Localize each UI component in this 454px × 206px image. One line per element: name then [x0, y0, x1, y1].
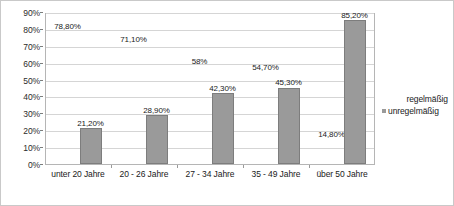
y-axis-tick-mark: [40, 80, 43, 81]
bar-unregelmaessig: [146, 115, 168, 164]
x-axis-tick-label: über 50 Jahre: [309, 169, 375, 179]
chart-frame: 0%10%20%30%40%50%60%70%80%90% 78,80%21,2…: [0, 0, 454, 206]
y-axis-tick-label: 20%: [23, 127, 40, 136]
y-axis-tick-label: 30%: [23, 110, 40, 119]
x-axis-tick-mark: [243, 165, 244, 168]
gridline: [46, 30, 374, 31]
y-axis-tick-label: 40%: [23, 93, 40, 102]
y-axis-tick-mark: [40, 12, 43, 13]
data-label: 54,70%: [252, 63, 279, 72]
x-axis-tick-label: 20 - 26 Jahre: [111, 169, 177, 179]
bar-regelmaessig: [189, 66, 211, 164]
x-axis-tick-label: 27 - 34 Jahre: [177, 169, 243, 179]
data-label: 42,30%: [209, 84, 236, 93]
x-axis-tick-label: unter 20 Jahre: [45, 169, 111, 179]
x-axis-tick-mark: [111, 165, 112, 168]
x-axis-tick-mark: [177, 165, 178, 168]
legend-item-regelmaessig[interactable]: regelmäßig: [382, 93, 450, 105]
y-axis-tick-mark: [40, 113, 43, 114]
gridline: [46, 64, 374, 65]
y-axis-tick-mark: [40, 164, 43, 165]
bar-unregelmaessig: [80, 128, 102, 164]
data-label: 21,20%: [77, 119, 104, 128]
data-label: 78,80%: [54, 22, 81, 31]
y-axis-tick-label: 90%: [23, 9, 40, 18]
chart-legend: regelmäßigunregelmäßig: [382, 93, 450, 117]
gridline: [46, 13, 374, 14]
bar-unregelmaessig: [212, 93, 234, 164]
y-axis-tick-label: 0%: [28, 161, 40, 170]
y-axis-tick-label: 60%: [23, 59, 40, 68]
data-label: 71,10%: [120, 35, 147, 44]
data-label: 28,90%: [143, 106, 170, 115]
y-axis-tick-mark: [40, 29, 43, 30]
y-axis-tick-label: 80%: [23, 25, 40, 34]
x-axis-tick-label: 35 - 49 Jahre: [243, 169, 309, 179]
bar-unregelmaessig: [278, 88, 300, 165]
gridline: [46, 47, 374, 48]
y-axis-tick-mark: [40, 147, 43, 148]
plot-area: 78,80%21,20%71,10%28,90%58%42,30%54,70%4…: [45, 13, 375, 165]
bar-regelmaessig: [123, 44, 145, 164]
y-axis-tick-mark: [40, 130, 43, 131]
bar-unregelmaessig: [344, 20, 366, 164]
legend-item-label: unregelmäßig: [388, 106, 439, 116]
y-axis: 0%10%20%30%40%50%60%70%80%90%: [3, 13, 43, 165]
y-axis-tick-mark: [40, 63, 43, 64]
bar-regelmaessig: [57, 31, 79, 164]
data-label: 45,30%: [275, 78, 302, 87]
legend-item-unregelmaessig[interactable]: unregelmäßig: [382, 105, 450, 117]
y-axis-tick-mark: [40, 96, 43, 97]
y-axis-tick-label: 50%: [23, 76, 40, 85]
legend-item-label: regelmäßig: [406, 94, 448, 104]
bar-regelmaessig: [321, 139, 343, 164]
legend-swatch-icon: [382, 109, 386, 113]
y-axis-tick-mark: [40, 46, 43, 47]
bar-regelmaessig: [255, 72, 277, 164]
data-label: 58%: [192, 57, 208, 66]
x-axis: unter 20 Jahre20 - 26 Jahre27 - 34 Jahre…: [45, 169, 375, 185]
x-axis-tick-mark: [309, 165, 310, 168]
y-axis-tick-label: 10%: [23, 144, 40, 153]
data-label: 14,80%: [318, 130, 345, 139]
y-axis-tick-label: 70%: [23, 42, 40, 51]
data-label: 85,20%: [341, 11, 368, 20]
